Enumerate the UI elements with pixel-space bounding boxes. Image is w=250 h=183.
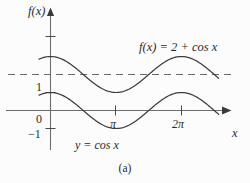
y-tick-label-neg-one: −1 (28, 128, 41, 140)
curve-label-lower: y = cos x (75, 139, 119, 151)
figure-panel: f(x) x f(x) = 2 + cos x y = cos x 1 0 −1… (0, 0, 250, 183)
panel-caption: (a) (0, 162, 250, 174)
x-tick-label-pi: π (110, 118, 116, 130)
curve-lower-final (39, 93, 219, 129)
axis-label-y: f(x) (28, 5, 45, 18)
x-tick-label-two-pi: 2π (172, 118, 184, 130)
curve-label-upper: f(x) = 2 + cos x (139, 41, 217, 54)
y-tick-label-zero: 0 (36, 113, 42, 125)
curve-upper-final (39, 57, 219, 93)
axis-label-x: x (232, 127, 238, 140)
y-tick-label-one: 1 (36, 81, 42, 93)
